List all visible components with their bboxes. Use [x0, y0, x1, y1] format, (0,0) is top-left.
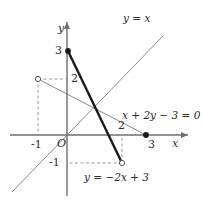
math-diagram: y x O 3 2 -1 -1 2 3 y = x x + 2y − 3 = 0… — [0, 0, 202, 206]
x-tick-2: 2 — [118, 120, 125, 131]
y-tick-2: 2 — [71, 73, 78, 84]
x-tick-3: 3 — [148, 139, 155, 150]
origin-label: O — [57, 138, 66, 149]
y-tick-neg1: -1 — [49, 157, 60, 168]
x-tick-neg1: -1 — [31, 139, 42, 150]
x-axis-arrow — [181, 132, 188, 138]
x-axis-label: x — [172, 138, 178, 149]
equation-label-segment: y = −2x + 3 — [84, 172, 149, 183]
y-axis-label: y — [58, 23, 64, 34]
y-axis-arrow — [64, 22, 70, 29]
line-segment — [68, 51, 122, 163]
point-open-2-neg1 — [119, 160, 124, 165]
line-implicit — [38, 79, 146, 135]
point-open-neg1-2 — [35, 76, 40, 81]
equation-label-implicit: x + 2y − 3 = 0 — [122, 110, 200, 121]
point-closed-0-3 — [65, 48, 71, 54]
y-tick-3: 3 — [55, 45, 62, 56]
equation-label-identity: y = x — [123, 13, 150, 24]
